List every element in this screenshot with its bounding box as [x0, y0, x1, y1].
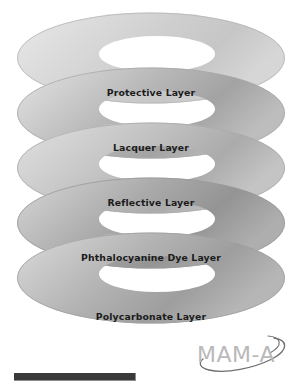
mam-a-logo-graphic: MAM-A [196, 334, 296, 380]
layer-label-phthalocyanine-dye: Phthalocyanine Dye Layer [17, 253, 285, 262]
layer-label-reflective: Reflective Layer [17, 198, 285, 207]
bottom-color-bar [14, 373, 136, 381]
mam-a-logo: MAM-A [196, 334, 296, 380]
layer-label-protective: Protective Layer [17, 88, 285, 97]
layer-label-lacquer: Lacquer Layer [17, 143, 285, 152]
mam-a-wordmark: MAM-A [197, 342, 275, 367]
layer-label-polycarbonate: Polycarbonate Layer [17, 312, 285, 321]
cd-layer-diagram: Protective Layer Lacquer Layer Reflectiv… [0, 0, 304, 384]
disc-stack: Protective Layer Lacquer Layer Reflectiv… [0, 0, 304, 384]
